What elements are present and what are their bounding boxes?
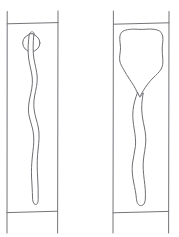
left-panel <box>7 11 58 233</box>
left-panel-top-rule <box>7 23 58 24</box>
right-funnel-body <box>120 29 163 97</box>
right-wavy-tail <box>132 93 146 206</box>
right-panel <box>113 11 169 233</box>
left-wavy-filament <box>28 34 39 204</box>
left-panel-bottom-rule <box>7 211 58 212</box>
figure-root <box>0 0 179 237</box>
figure-canvas <box>0 0 179 237</box>
right-panel-top-rule <box>113 23 169 24</box>
right-panel-bottom-rule <box>113 211 169 212</box>
